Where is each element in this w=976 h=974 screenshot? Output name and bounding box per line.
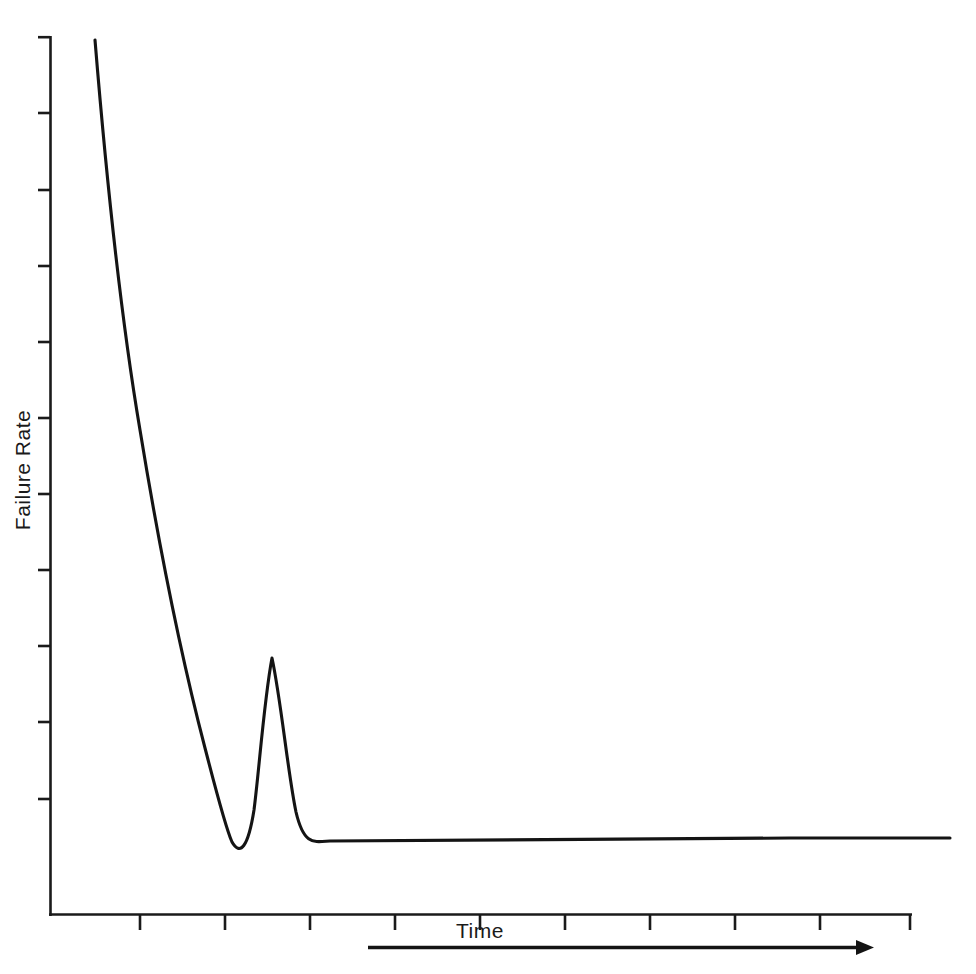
x-axis-label: Time <box>456 919 504 942</box>
x-axis-ticks <box>140 915 910 930</box>
failure-rate-curve <box>95 40 950 848</box>
bathtub-curve-plot: Failure Rate Time <box>0 0 976 974</box>
y-axis-label: Failure Rate <box>11 410 34 530</box>
y-axis-ticks <box>38 37 50 799</box>
chart-figure: Failure Rate Time <box>0 0 976 974</box>
time-direction-arrow-icon <box>368 940 874 955</box>
y-axis <box>38 36 51 916</box>
